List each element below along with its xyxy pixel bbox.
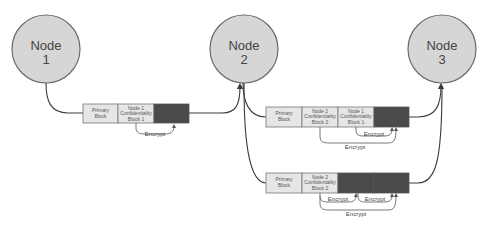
message-3-block-1-line2: Block [278, 182, 291, 188]
message-2-encrypt-label-inner: Encrypt [364, 131, 385, 137]
message-3-encrypted-block-2 [374, 173, 409, 193]
edge-node2-to-message2 [243, 83, 266, 117]
node-2: Node 2 [210, 15, 278, 83]
message-1-encrypted-block [154, 104, 189, 123]
diagram-canvas: Node 1 Node 2 Node 3 Primary Block Node … [0, 0, 490, 228]
message-3: Primary Block Node 2 Confidentiality Blo… [266, 173, 409, 217]
node-1: Node 1 [12, 15, 80, 83]
message-1: Primary Block Node 1 Confidentiality Blo… [83, 104, 189, 137]
message-3-encrypted-block-1 [338, 173, 374, 193]
node-3-label-line2: 3 [438, 52, 445, 67]
message-2: Primary Block Node 2 Confidentiality Blo… [266, 107, 409, 150]
message-1-encrypt-label: Encrypt [145, 131, 166, 137]
message-2-block-1-line2: Block [278, 116, 291, 122]
node-1-label-line1: Node [30, 38, 61, 53]
edge-message2-to-node3 [409, 86, 441, 117]
message-3-block-2-line3: Block 2 [312, 185, 329, 191]
edge-node1-to-message1 [46, 83, 83, 113]
node-2-label-line1: Node [228, 38, 259, 53]
edge-message3-to-node3 [409, 86, 442, 183]
message-2-encrypt-label-outer: Encrypt [345, 144, 366, 150]
message-3-encrypt-label-left: Encrypt [328, 196, 349, 202]
message-2-block-3-line3: Block 1 [348, 119, 365, 125]
message-3-encrypt-label-right: Encrypt [365, 196, 386, 202]
edge-message1-to-node2 [189, 86, 240, 113]
edge-node2-to-message3 [244, 83, 266, 183]
node-1-label-line2: 1 [42, 52, 49, 67]
message-3-encrypt-label-outer: Encrypt [346, 211, 367, 217]
node-3-label-line1: Node [426, 38, 457, 53]
message-2-block-2-line3: Block 2 [312, 119, 329, 125]
message-2-encrypted-block [374, 107, 409, 127]
node-3: Node 3 [408, 15, 476, 83]
node-2-label-line2: 2 [240, 52, 247, 67]
message-1-block-2-line3: Block 1 [128, 116, 145, 122]
message-1-block-1-line2: Block [94, 113, 107, 119]
